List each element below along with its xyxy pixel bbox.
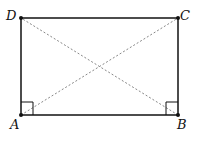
label-d: D — [5, 8, 17, 23]
vertex-d — [19, 16, 23, 20]
vertex-a — [19, 113, 23, 117]
label-a: A — [9, 117, 19, 132]
label-c: C — [180, 8, 190, 23]
rectangle-diagram: A B C D — [0, 0, 197, 145]
label-b: B — [176, 117, 187, 132]
